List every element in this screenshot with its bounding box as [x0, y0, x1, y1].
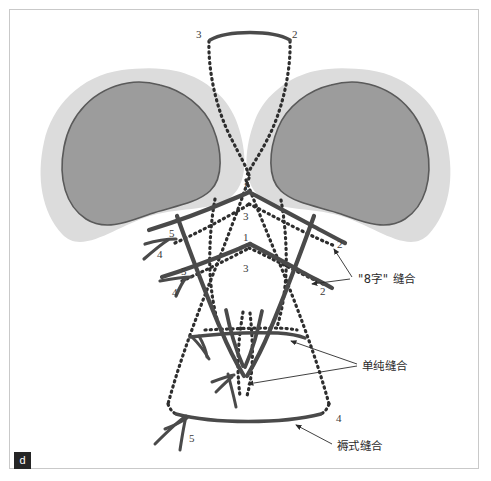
organ-body-group [62, 82, 429, 225]
leader-simple-lower [248, 366, 357, 384]
top-arc-suture [210, 33, 290, 41]
dotted-bottom-right-arc [321, 404, 329, 414]
number-label-top-left: 3 [196, 28, 202, 40]
leader-mattress [296, 425, 332, 444]
dotted-bottom-left-arc [168, 404, 176, 414]
number-label-left-upper-4: 4 [157, 248, 163, 260]
leader-simple-upper [291, 341, 357, 364]
label-figure-eight-suture: "8字" 缝合 [358, 270, 415, 286]
number-label-center-mid: 1 [243, 231, 249, 243]
left-organ-tether [177, 216, 244, 376]
number-label-left-upper-5: 5 [169, 227, 175, 239]
number-label-bottom-right-4: 4 [336, 412, 342, 424]
number-label-right-upper-2: 2 [337, 238, 343, 250]
left-upper-knot-tail-a [145, 239, 176, 244]
center-v-stitch-right [245, 311, 262, 367]
label-simple-suture: 单纯缝合 [362, 357, 408, 373]
figure-root: 3 2 1 3 1 3 5 4 5 4 2 2 5 4 "8字" 缝合 单纯缝合… [0, 0, 491, 481]
label-mattress-suture: 褥式缝合 [337, 437, 383, 453]
right-organ-tether [247, 216, 314, 376]
number-label-left-lower-5: 5 [181, 265, 187, 277]
number-label-right-lower-2: 2 [320, 285, 326, 297]
bottom-mattress-arc [176, 414, 321, 422]
number-label-center-mid-upper: 3 [243, 210, 249, 222]
number-label-bottom-left-5: 5 [189, 432, 195, 444]
number-label-top-right: 2 [292, 28, 298, 40]
number-label-left-lower-4: 4 [172, 286, 178, 298]
leader-figure-eight-upper [334, 249, 352, 277]
panel-tag: d [14, 452, 31, 469]
lower-chevron-suture [162, 244, 250, 277]
number-label-center-upper: 1 [243, 180, 249, 192]
number-label-center-lower: 3 [243, 262, 249, 274]
simple-suture-horizontal [190, 333, 305, 338]
